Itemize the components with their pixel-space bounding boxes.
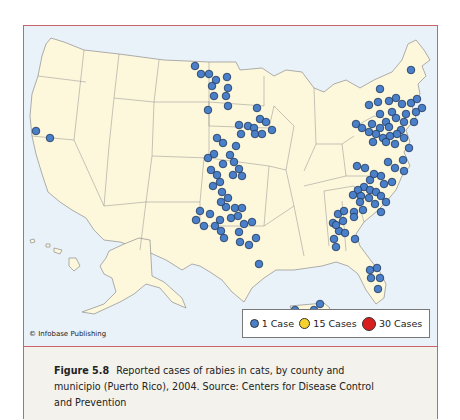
case-dot (226, 151, 234, 159)
case-dot (400, 118, 408, 126)
case-dot (216, 178, 224, 186)
case-dot (245, 241, 253, 249)
case-dot (377, 208, 385, 216)
case-dot (332, 221, 340, 229)
case-dot (251, 130, 259, 138)
legend-label: 30 Cases (379, 318, 422, 329)
case-dot (220, 234, 228, 242)
case-dot (219, 139, 227, 147)
case-dot (231, 204, 239, 212)
case-dot (255, 260, 263, 268)
case-dot (330, 235, 338, 243)
case-dot (365, 194, 373, 202)
case-dot (268, 126, 276, 134)
case-dot (224, 102, 232, 110)
us-map (24, 26, 437, 346)
case-dot (392, 94, 400, 102)
figure-label: Figure 5.8 (54, 365, 109, 376)
case-dot (316, 300, 324, 308)
case-dot (217, 198, 225, 206)
legend-item-1-case: 1 Case (250, 318, 294, 329)
case-dot (373, 264, 381, 272)
case-dot (377, 172, 385, 180)
case-dot (384, 158, 392, 166)
case-dot (351, 235, 359, 243)
case-dot (236, 238, 244, 246)
case-dot (374, 98, 382, 106)
case-dot (258, 130, 266, 138)
case-dot (229, 171, 237, 179)
case-dot (252, 234, 260, 242)
case-dot (400, 167, 408, 175)
case-dot (209, 182, 217, 190)
case-dot (413, 95, 421, 103)
case-dot (213, 171, 221, 179)
yellow-dot-icon (299, 318, 310, 329)
case-dot (356, 198, 364, 206)
case-dot (234, 212, 242, 220)
figure-caption: Figure 5.8 Reported cases of rabies in c… (54, 363, 394, 411)
case-dot (361, 164, 369, 172)
case-dot (371, 200, 379, 208)
case-dot (223, 73, 231, 81)
case-dot (370, 170, 378, 178)
case-dot (196, 207, 204, 215)
case-dot (222, 92, 230, 100)
case-dot (367, 274, 375, 282)
case-dot (358, 124, 366, 132)
case-dot (376, 110, 384, 118)
copyright-text: © Infobase Publishing (29, 330, 106, 338)
case-dot (365, 128, 373, 136)
map-panel: © Infobase Publishing 1 Case 15 Cases 30… (24, 26, 437, 347)
case-dot (224, 84, 232, 92)
blue-dot-icon (250, 319, 259, 328)
case-dot (205, 70, 213, 78)
case-dot (368, 120, 376, 128)
case-dot (382, 138, 390, 146)
case-dot (369, 138, 377, 146)
case-dot (391, 164, 399, 172)
case-dot (400, 134, 408, 142)
case-dot (253, 104, 261, 112)
case-dot (230, 158, 238, 166)
case-dot (238, 172, 246, 180)
case-dot (372, 130, 380, 138)
legend-item-15-cases: 15 Cases (299, 318, 356, 329)
case-dot (341, 229, 349, 237)
case-dot (350, 213, 358, 221)
case-dot (262, 118, 270, 126)
case-dot (349, 191, 357, 199)
case-dot (374, 285, 382, 293)
case-dot (353, 162, 361, 170)
caption-panel: Figure 5.8 Reported cases of rabies in c… (24, 347, 437, 420)
case-dot (365, 101, 373, 109)
case-dot (376, 85, 384, 93)
case-dot (206, 210, 214, 218)
case-dot (224, 194, 232, 202)
case-dot (232, 142, 240, 150)
case-dot (235, 165, 243, 173)
case-dot (382, 198, 390, 206)
case-dot (418, 104, 426, 112)
case-dot (238, 204, 246, 212)
case-dot (391, 140, 399, 148)
case-dot (392, 114, 400, 122)
case-dot (218, 188, 226, 196)
case-dot (210, 92, 218, 100)
case-dot (339, 217, 347, 225)
case-dot (340, 207, 348, 215)
case-dot (46, 134, 54, 142)
legend: 1 Case 15 Cases 30 Cases (242, 309, 430, 338)
case-dot (235, 121, 243, 129)
case-dot (197, 70, 205, 78)
case-dot (217, 227, 225, 235)
case-dot (366, 266, 374, 274)
case-dot (200, 222, 208, 230)
case-dot (376, 274, 384, 282)
red-dot-icon (362, 317, 376, 331)
case-dot (204, 106, 212, 114)
case-dot (192, 216, 200, 224)
figure-frame: © Infobase Publishing 1 Case 15 Cases 30… (23, 25, 438, 419)
case-dot (32, 127, 40, 135)
case-dot (393, 130, 401, 138)
